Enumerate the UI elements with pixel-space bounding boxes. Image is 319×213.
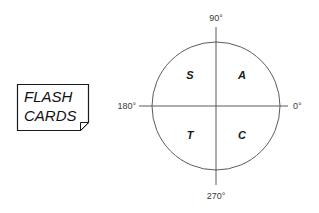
quadrant-label-a: A (237, 69, 246, 81)
flash-cards-note-line1: FLASH (24, 88, 73, 105)
quadrant-label-t: T (187, 129, 195, 141)
quadrant-label-s: S (186, 69, 194, 81)
flash-cards-note: FLASH CARDS (18, 85, 89, 131)
diagram-canvas: FLASH CARDS 90° 0° 180° 270° S A T C (0, 0, 319, 213)
quadrant-label-c: C (238, 129, 247, 141)
angle-label-270: 270° (207, 191, 226, 201)
unit-circle-diagram: FLASH CARDS 90° 0° 180° 270° S A T C (0, 0, 319, 213)
flash-cards-note-fold-icon (81, 123, 89, 131)
angle-label-0: 0° (293, 101, 302, 111)
angle-label-180: 180° (117, 101, 136, 111)
angle-label-90: 90° (209, 13, 223, 23)
flash-cards-note-line2: CARDS (24, 107, 77, 124)
